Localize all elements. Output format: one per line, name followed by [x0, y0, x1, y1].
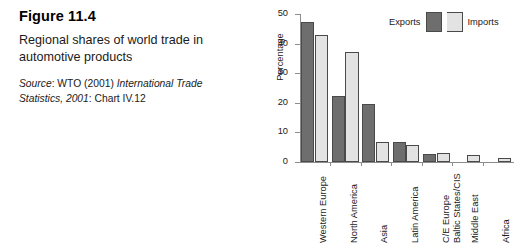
bar-exports — [362, 104, 375, 162]
x-axis-label: Latin America — [410, 187, 421, 243]
y-axis-tick-label: 50 — [278, 8, 288, 18]
bar-imports — [315, 35, 328, 162]
x-axis-label-line: Latin America — [410, 187, 420, 243]
figure-number: Figure 11.4 — [19, 8, 241, 25]
bar-exports — [301, 22, 314, 162]
bar-imports — [406, 145, 419, 162]
x-axis-label-line: North America — [349, 184, 359, 243]
y-axis-tick-label: 30 — [278, 67, 288, 77]
bar-imports — [376, 142, 389, 162]
bar-imports — [498, 158, 511, 162]
x-axis-label: C/E EuropeBaltic States/CIS — [441, 173, 463, 243]
bar-imports — [467, 155, 480, 162]
x-axis-label-line: Africa — [501, 219, 511, 243]
x-axis-label-line: Western Europe — [318, 176, 328, 243]
x-axis-label-line: Baltic States/CIS — [452, 173, 463, 243]
plot-area: 01020304050 — [300, 14, 514, 163]
source-publisher: : WTO (2001) — [52, 78, 117, 89]
y-axis-tick: 20 — [295, 103, 300, 104]
x-axis-label-line: Asia — [379, 225, 389, 243]
bar-imports — [345, 52, 358, 162]
y-axis-tick-label: 10 — [278, 126, 288, 136]
y-axis-tick-label: 40 — [278, 38, 288, 48]
bar-exports — [393, 142, 406, 162]
x-axis-label-line: C/E Europe — [441, 195, 451, 243]
y-axis-title: Percentage — [275, 9, 285, 105]
bar-exports — [332, 96, 345, 162]
y-axis-tick: 50 — [295, 14, 300, 15]
figure-title: Regional shares of world trade in automo… — [19, 32, 241, 66]
x-axis-label: North America — [349, 184, 360, 243]
caption-block: Figure 11.4 Regional shares of world tra… — [19, 8, 241, 107]
source-note: Source: WTO (2001) International Trade S… — [19, 76, 241, 106]
y-axis-tick: 40 — [295, 44, 300, 45]
x-axis-label: Middle East — [470, 194, 481, 243]
source-chart-ref: : Chart IV.12 — [89, 93, 146, 104]
x-axis-label: Western Europe — [318, 176, 329, 243]
x-axis-labels: Western EuropeNorth AmericaAsiaLatin Ame… — [301, 165, 514, 245]
x-axis-label: Africa — [501, 219, 512, 243]
y-axis-tick: 30 — [295, 73, 300, 74]
bar-chart: Percentage Exports Imports 01020304050 W… — [256, 0, 514, 245]
y-axis-tick-label: 0 — [283, 156, 288, 166]
y-axis-tick: 10 — [295, 132, 300, 133]
y-axis-tick: 0 — [295, 162, 300, 163]
bars-layer — [301, 14, 514, 162]
x-axis-label: Asia — [379, 225, 390, 243]
figure-container: Figure 11.4 Regional shares of world tra… — [0, 0, 514, 245]
source-label: Source — [19, 78, 52, 89]
bar-imports — [437, 153, 450, 162]
bar-exports — [423, 154, 436, 162]
y-axis-tick-label: 20 — [278, 97, 288, 107]
x-axis-label-line: Middle East — [470, 194, 480, 243]
